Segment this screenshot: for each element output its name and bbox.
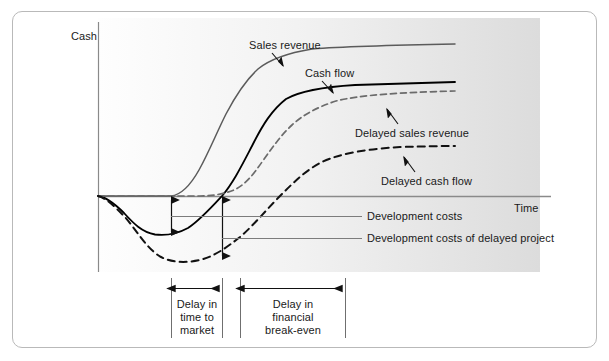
- delay-financial-break-even-label-line1: Delay in: [240, 298, 346, 310]
- delayed-sales-revenue-label: Delayed sales revenue: [355, 127, 469, 139]
- y-axis-label: Cash: [71, 30, 97, 42]
- delay-time-to-market-label-line2: time to: [171, 311, 223, 323]
- cash-flow-label: Cash flow: [305, 67, 354, 79]
- sales-revenue-label: Sales revenue: [249, 39, 321, 51]
- figure-root: Cash Time Sales revenue Cash flow Delaye…: [0, 0, 609, 361]
- delay-time-to-market-label-line1: Delay in: [171, 298, 223, 310]
- x-axis-label: Time: [514, 202, 538, 214]
- delayed-development-costs-label: Development costs of delayed project: [367, 232, 554, 244]
- delayed-cash-flow-label: Delayed cash flow: [381, 175, 472, 187]
- delay-financial-break-even-label-line2: financial: [240, 311, 346, 323]
- delay-financial-break-even-label-line3: break-even: [240, 324, 346, 336]
- development-costs-label: Development costs: [367, 210, 462, 222]
- delay-time-to-market-label-line3: market: [171, 324, 223, 336]
